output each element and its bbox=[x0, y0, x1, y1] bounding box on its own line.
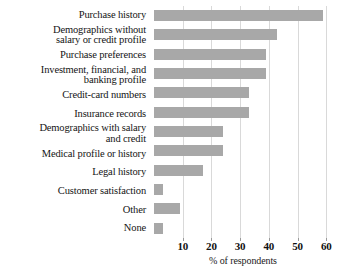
category-label: None bbox=[0, 219, 150, 238]
x-tick-label: 10 bbox=[177, 240, 188, 252]
bar-chart: Purchase historyDemographics without sal… bbox=[0, 0, 342, 271]
category-label: Insurance records bbox=[0, 105, 150, 124]
bar bbox=[154, 145, 223, 156]
category-label: Demographics without salary or credit pr… bbox=[0, 25, 150, 46]
x-tick-label: 30 bbox=[235, 240, 246, 252]
bar bbox=[154, 223, 163, 234]
bar bbox=[154, 87, 249, 98]
bar-row bbox=[154, 141, 332, 160]
category-label: Demographics with salary and credit bbox=[0, 123, 150, 144]
x-tick-label: 20 bbox=[206, 240, 217, 252]
category-label: Credit-card numbers bbox=[0, 86, 150, 105]
x-tick-label: 40 bbox=[264, 240, 275, 252]
bar bbox=[154, 49, 266, 60]
x-tick-label: 50 bbox=[292, 240, 303, 252]
bar-row bbox=[154, 180, 332, 199]
bar-row bbox=[154, 219, 332, 238]
bar bbox=[154, 10, 323, 21]
x-axis-title: % of respondents bbox=[154, 255, 332, 266]
bar-series bbox=[154, 6, 332, 238]
bar bbox=[154, 68, 266, 79]
plot-area bbox=[154, 6, 332, 238]
bar-row bbox=[154, 45, 332, 64]
category-label: Purchase preferences bbox=[0, 46, 150, 65]
bar-row bbox=[154, 122, 332, 141]
bar-row bbox=[154, 199, 332, 218]
x-axis: 102030405060 bbox=[154, 238, 332, 254]
category-label: Legal history bbox=[0, 163, 150, 182]
bar-row bbox=[154, 103, 332, 122]
bar-row bbox=[154, 64, 332, 83]
bar bbox=[154, 184, 163, 195]
category-label-column: Purchase historyDemographics without sal… bbox=[0, 6, 150, 238]
bar bbox=[154, 203, 180, 214]
bar-row bbox=[154, 6, 332, 25]
bar-row bbox=[154, 83, 332, 102]
bar bbox=[154, 126, 223, 137]
bar bbox=[154, 29, 277, 40]
category-label: Customer satisfaction bbox=[0, 182, 150, 201]
x-tick-label: 60 bbox=[321, 240, 332, 252]
category-label: Purchase history bbox=[0, 6, 150, 25]
bar bbox=[154, 107, 249, 118]
bar bbox=[154, 165, 203, 176]
bar-row bbox=[154, 25, 332, 44]
bar-row bbox=[154, 161, 332, 180]
category-label: Investment, financial, and banking profi… bbox=[0, 65, 150, 86]
category-label: Other bbox=[0, 201, 150, 220]
category-label: Medical profile or history bbox=[0, 145, 150, 164]
